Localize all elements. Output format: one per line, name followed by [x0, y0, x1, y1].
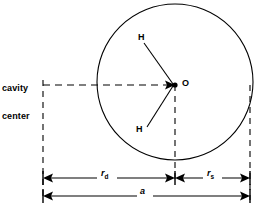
- hydrogen-top-label: H: [138, 33, 145, 42]
- cavity-center-label-line2: center: [2, 112, 30, 121]
- cavity-center-label-line1: cavity: [2, 84, 30, 93]
- cavity-diagram-figure: cavity center H H O rd rs a: [0, 0, 257, 208]
- bond-oxygen-hydrogen-top: [144, 43, 173, 84]
- oxygen-atom-dot-icon: [172, 82, 177, 87]
- dimension-label-rd: rd: [101, 169, 109, 181]
- bond-oxygen-hydrogen-bottom: [147, 86, 173, 127]
- dimension-label-a: a: [140, 187, 145, 196]
- dimension-label-rd-subscript: d: [105, 173, 109, 180]
- diagram-canvas: [0, 0, 257, 208]
- dimension-label-rs: rs: [207, 169, 214, 181]
- hydrogen-bottom-label: H: [136, 125, 143, 134]
- cavity-circle: [97, 4, 253, 160]
- dimension-label-rs-subscript: s: [211, 173, 215, 180]
- cavity-center-label: cavity center: [2, 65, 30, 141]
- oxygen-label: O: [182, 79, 189, 88]
